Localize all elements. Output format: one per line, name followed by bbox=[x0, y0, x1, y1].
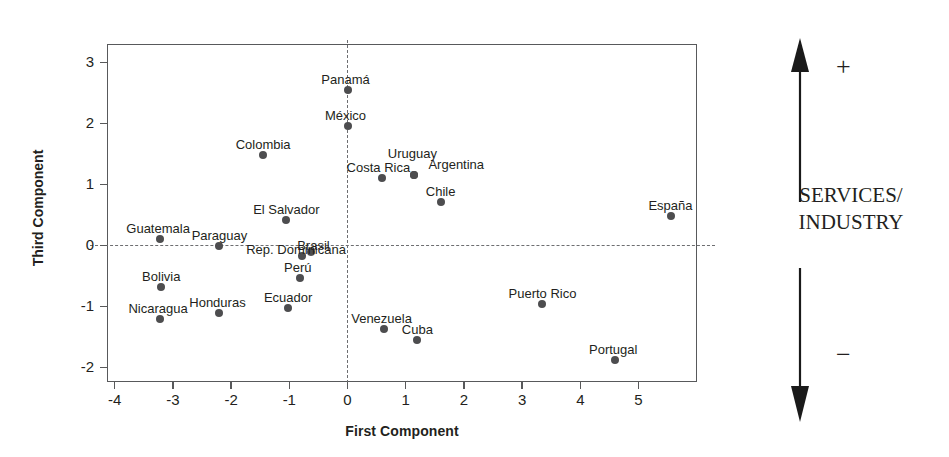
y-axis-tick bbox=[100, 184, 107, 186]
x-axis-tick bbox=[114, 382, 116, 389]
annotation-text-line-1: SERVICES/ bbox=[760, 182, 942, 209]
data-point bbox=[344, 86, 352, 94]
data-point bbox=[296, 274, 304, 282]
data-point-label: Honduras bbox=[189, 296, 245, 309]
x-axis-tick bbox=[580, 382, 582, 389]
data-point-label: Panamá bbox=[321, 73, 369, 86]
data-point-label: Portugal bbox=[589, 343, 637, 356]
data-point-label: Ecuador bbox=[264, 291, 312, 304]
x-axis-tick-label: 2 bbox=[444, 391, 484, 408]
x-axis-tick bbox=[405, 382, 407, 389]
x-axis-tick bbox=[521, 382, 523, 389]
x-axis-tick bbox=[347, 382, 349, 389]
y-axis-tick-label: -1 bbox=[60, 297, 94, 314]
annotation-text-line-2: INDUSTRY bbox=[760, 209, 942, 236]
x-axis-tick bbox=[230, 382, 232, 389]
y-axis-tick-label: 3 bbox=[60, 53, 94, 70]
x-axis-tick bbox=[463, 382, 465, 389]
data-point-label: México bbox=[325, 109, 366, 122]
x-axis-tick-label: 0 bbox=[328, 391, 368, 408]
y-axis-tick-label: 2 bbox=[60, 114, 94, 131]
x-axis-tick-label: 1 bbox=[386, 391, 426, 408]
y-axis-tick-label: 0 bbox=[60, 236, 94, 253]
x-axis-tick-label: -3 bbox=[153, 391, 193, 408]
data-point bbox=[611, 356, 619, 364]
data-point-label: España bbox=[648, 199, 692, 212]
data-point bbox=[156, 315, 164, 323]
data-point-label: Colombia bbox=[236, 138, 291, 151]
annotation-panel: + SERVICES/ INDUSTRY − bbox=[760, 0, 949, 457]
annotation-text: SERVICES/ INDUSTRY bbox=[760, 182, 942, 236]
x-axis-tick bbox=[638, 382, 640, 389]
x-axis-tick-label: -2 bbox=[211, 391, 251, 408]
y-axis-tick bbox=[100, 123, 107, 125]
data-point bbox=[215, 242, 223, 250]
data-point-label: Bolivia bbox=[142, 270, 180, 283]
data-point bbox=[156, 235, 164, 243]
data-point-label: El Salvador bbox=[253, 203, 319, 216]
data-point bbox=[344, 122, 352, 130]
scatter-plot-figure: -4-3-2-1012345-2-10123 PanamáMéxicoColom… bbox=[0, 0, 760, 457]
data-point bbox=[380, 325, 388, 333]
data-point bbox=[437, 198, 445, 206]
y-axis-tick bbox=[100, 306, 107, 308]
data-point bbox=[667, 212, 675, 220]
data-point-label: Chile bbox=[426, 185, 456, 198]
x-axis-tick-label: 3 bbox=[502, 391, 542, 408]
data-point-label: Paraguay bbox=[192, 229, 248, 242]
data-point bbox=[259, 151, 267, 159]
x-axis-title: First Component bbox=[107, 423, 697, 439]
data-point-label: Costa Rica bbox=[347, 161, 411, 174]
data-point-label: Argentina bbox=[428, 158, 484, 171]
minus-sign-label: − bbox=[836, 340, 851, 370]
x-axis-tick-label: -1 bbox=[269, 391, 309, 408]
data-point-label: Guatemala bbox=[126, 222, 190, 235]
x-axis-tick-label: -4 bbox=[95, 391, 135, 408]
y-axis-tick bbox=[100, 245, 107, 247]
reference-line-horizontal bbox=[90, 245, 715, 246]
x-axis-tick bbox=[172, 382, 174, 389]
y-axis-tick bbox=[100, 62, 107, 64]
x-axis-tick bbox=[289, 382, 291, 389]
y-axis-tick bbox=[100, 367, 107, 369]
data-point-label: Rep. Dominicana bbox=[246, 243, 346, 256]
data-point-label: Perú bbox=[284, 261, 311, 274]
y-axis-tick-label: 1 bbox=[60, 175, 94, 192]
data-point bbox=[284, 304, 292, 312]
data-point-label: Cuba bbox=[402, 323, 433, 336]
x-axis-tick-label: 4 bbox=[560, 391, 600, 408]
y-axis-tick-label: -2 bbox=[60, 358, 94, 375]
y-axis-title: Third Component bbox=[30, 108, 46, 308]
data-point-label: Puerto Rico bbox=[509, 287, 577, 300]
plus-sign-label: + bbox=[836, 52, 851, 82]
x-axis-tick-label: 5 bbox=[619, 391, 659, 408]
data-point-label: Nicaragua bbox=[128, 302, 187, 315]
